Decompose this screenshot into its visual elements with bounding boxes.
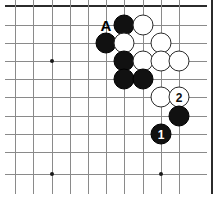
grid-line-vertical (33, 0, 34, 194)
stone-white (169, 51, 190, 72)
grid-line-vertical (52, 0, 53, 194)
grid-line-vertical (70, 0, 71, 194)
stone-black (133, 69, 154, 90)
stone-black (169, 106, 190, 127)
star-point (159, 172, 163, 176)
go-board-diagram: 21 A (0, 0, 222, 200)
stone-black (114, 69, 135, 90)
grid-line-vertical (211, 0, 213, 194)
grid-line-vertical (88, 0, 89, 194)
star-point (50, 59, 54, 63)
grid-line-vertical (15, 0, 16, 194)
stone-white-move-2: 2 (169, 87, 190, 108)
star-point (50, 172, 54, 176)
stone-white (133, 15, 154, 36)
point-label-a: A (101, 18, 112, 33)
stone-black-move-1: 1 (151, 124, 172, 145)
